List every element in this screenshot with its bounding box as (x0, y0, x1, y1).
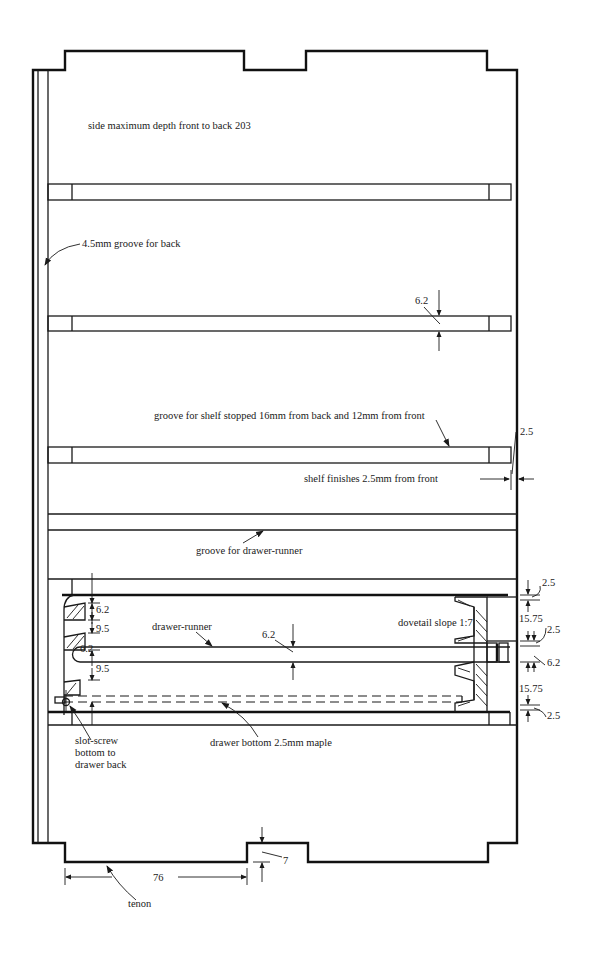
label-right-dim-1: 2.5 (542, 577, 555, 589)
label-slot-screw: slot-screw bottom to drawer back (75, 735, 127, 771)
label-drawer-runner: drawer-runner (152, 621, 212, 633)
drawer-runner-leader (196, 632, 212, 646)
label-shelf-finish-dim: 2.5 (520, 426, 533, 438)
shelf-groove-3 (48, 447, 511, 463)
shelf-groove-1 (48, 184, 511, 200)
label-drawer-gap-2: 9.5 (96, 663, 109, 675)
shelf-groove-leader (436, 420, 449, 446)
label-tenon-depth: 7 (283, 855, 288, 867)
label-shelf-groove-thickness: 6.2 (415, 295, 428, 307)
label-shelf-finishes: shelf finishes 2.5mm from front (304, 473, 438, 485)
back-groove-leader (45, 244, 80, 265)
shelf-groove-2 (48, 316, 511, 331)
runner-groove-leader (243, 531, 263, 543)
label-drawer-gap-1: 9.5 (96, 623, 109, 635)
label-drawer-groove-left: 6.2 (80, 643, 93, 655)
label-drawer-bottom: drawer bottom 2.5mm maple (210, 737, 332, 749)
label-dovetail-slope: dovetail slope 1:7 (398, 617, 473, 629)
shelf-finish-dim (480, 432, 534, 490)
label-shelf-groove-stopped: groove for shelf stopped 16mm from back … (154, 410, 425, 422)
label-right-dim-3: 2.5 (547, 624, 560, 636)
label-runner-thickness: 6.2 (262, 629, 275, 641)
dovetail-hatching (458, 600, 487, 706)
label-right-dim-4: 6.2 (547, 657, 560, 669)
drawer-runner-groove (48, 514, 517, 530)
label-runner-groove: groove for drawer-runner (196, 545, 303, 557)
label-right-dim-2: 15.75 (519, 613, 543, 625)
label-tenon: tenon (128, 898, 151, 910)
label-drawer-top-gap: 6.2 (96, 604, 109, 616)
tenon-leader (107, 866, 136, 900)
label-tenon-length: 76 (153, 872, 164, 884)
drawer-section (48, 573, 517, 725)
cabinet-side-drawing (0, 0, 594, 954)
tenon-dims (65, 827, 282, 885)
label-side-depth: side maximum depth front to back 203 (88, 120, 251, 132)
label-right-dim-6: 2.5 (547, 710, 560, 722)
drawer-bottom-leader (222, 703, 258, 737)
runner-thickness-dim (275, 624, 293, 680)
label-right-dim-5: 15.75 (519, 683, 543, 695)
right-dimensions (520, 580, 546, 722)
label-back-groove: 4.5mm groove for back (82, 238, 181, 250)
